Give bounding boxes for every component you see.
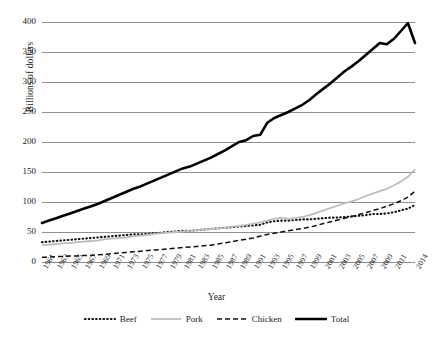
legend-key-icon xyxy=(84,314,116,324)
legend-label: Pork xyxy=(186,314,203,324)
legend-item-beef: Beef xyxy=(84,314,137,324)
line-chart: Billions of dollars 05010015020025030035… xyxy=(0,0,433,340)
legend-label: Total xyxy=(331,314,349,324)
plot-area xyxy=(0,0,433,340)
series-line-beef xyxy=(42,205,415,242)
chart-legend: BeefPorkChickenTotal xyxy=(0,314,433,324)
series-line-total xyxy=(42,23,415,223)
legend-item-total: Total xyxy=(295,314,349,324)
legend-label: Beef xyxy=(120,314,137,324)
legend-key-icon xyxy=(216,314,248,324)
legend-item-chicken: Chicken xyxy=(216,314,282,324)
series-line-pork xyxy=(42,169,415,245)
legend-key-icon xyxy=(150,314,182,324)
legend-label: Chicken xyxy=(252,314,282,324)
series-line-chicken xyxy=(42,191,415,257)
legend-key-icon xyxy=(295,314,327,324)
legend-item-pork: Pork xyxy=(150,314,203,324)
x-axis-title: Year xyxy=(0,292,433,302)
